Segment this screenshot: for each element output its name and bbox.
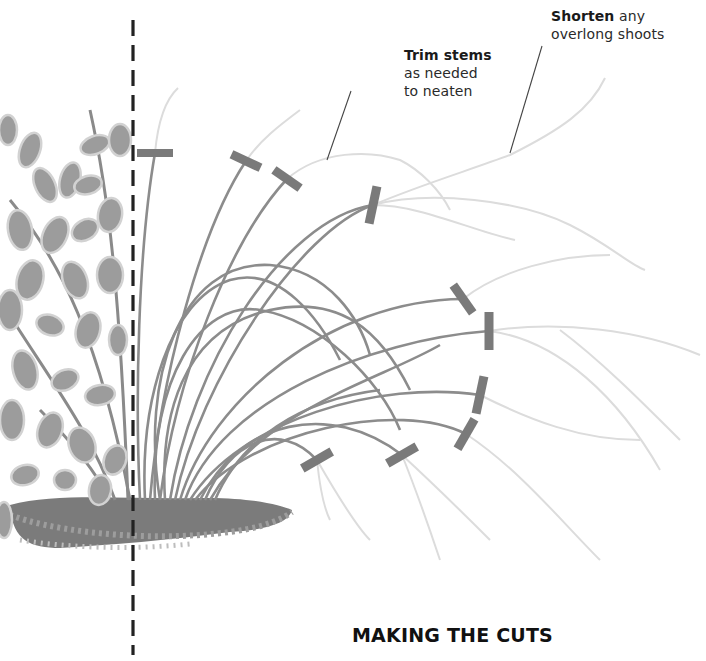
annotation-trim-line1: as needed (404, 65, 478, 81)
grass-pruning-illustration (0, 0, 706, 661)
illustration-title: MAKING THE CUTS (352, 624, 553, 646)
grass-stems (138, 153, 489, 500)
annotation-trim-line2: to neaten (404, 83, 472, 99)
annotation-shorten-bold: Shorten (551, 8, 614, 24)
annotation-shorten-after: any (614, 8, 645, 24)
soil-mound (10, 497, 292, 548)
illustration-canvas: Trim stems as needed to neaten Shorten a… (0, 0, 706, 661)
annotation-trim-bold: Trim stems (404, 47, 492, 63)
annotation-shorten-line1: overlong shoots (551, 26, 664, 42)
annotation-trim-stems: Trim stems as needed to neaten (404, 46, 492, 100)
annotation-shorten-shoots: Shorten any overlong shoots (551, 7, 664, 43)
shrub (0, 110, 131, 538)
